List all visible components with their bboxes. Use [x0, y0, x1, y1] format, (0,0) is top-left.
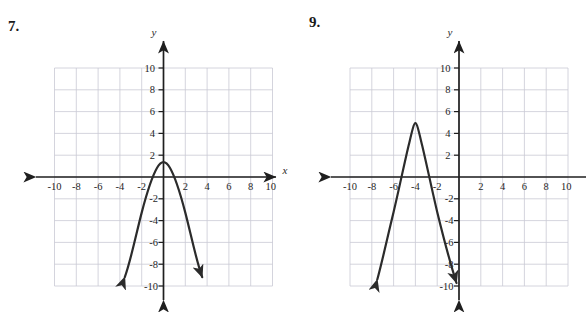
- x-axis-label-7: x: [282, 164, 288, 176]
- x-tick-7-p6: 6: [226, 181, 231, 192]
- x-tick-9-n2: -2: [433, 181, 442, 192]
- x-tick-labels-9: -10 -8 -6 -4 -2 2 4 6 8 10: [343, 181, 571, 192]
- x-tick-9-n6: -6: [389, 181, 398, 192]
- worksheet-page: 7.: [0, 0, 586, 312]
- y-tick-7-n10: -10: [144, 281, 158, 292]
- y-tick-9-p6: 6: [445, 106, 450, 117]
- x-tick-7-n4: -4: [116, 181, 125, 192]
- y-tick-7-n4: -4: [149, 215, 158, 226]
- x-tick-7-p10: 10: [265, 181, 276, 192]
- x-tick-9-n4: -4: [411, 181, 420, 192]
- y-axis-label-7: y: [151, 26, 157, 38]
- x-tick-9-n8: -8: [367, 181, 376, 192]
- y-tick-9-n2: -2: [445, 193, 454, 204]
- problem-7-panel: 7.: [0, 0, 293, 312]
- x-tick-7-p8: 8: [248, 181, 253, 192]
- y-tick-7-p8: 8: [150, 84, 155, 95]
- y-tick-7-n2: -2: [149, 193, 158, 204]
- x-tick-7-n6: -6: [94, 181, 103, 192]
- x-tick-9-p6: 6: [522, 181, 527, 192]
- y-tick-7-n8: -8: [149, 259, 158, 270]
- y-tick-7-p10: 10: [145, 63, 156, 74]
- x-tick-9-p2: 2: [478, 181, 483, 192]
- x-tick-labels-7: -10 -8 -6 -4 -2 2 4 6 8 10: [48, 181, 276, 192]
- y-tick-9-p8: 8: [445, 84, 450, 95]
- y-tick-7-n6: -6: [149, 237, 158, 248]
- graph-9: y x -10 -8 -6 -4 -2 2 4 6 8 10 10 8 6 4 …: [293, 0, 586, 312]
- x-tick-9-p4: 4: [500, 181, 506, 192]
- x-tick-7-n2: -2: [137, 181, 146, 192]
- problem-9-panel: 9.: [293, 0, 586, 312]
- y-tick-9-p4: 4: [445, 128, 451, 139]
- y-tick-9-n10: -10: [440, 281, 454, 292]
- graph-7: y x -10 -8 -6 -4 -2 2 4 6 8 10 10 8 6 4: [0, 0, 293, 312]
- x-tick-7-p4: 4: [204, 181, 210, 192]
- x-tick-9-p8: 8: [544, 181, 549, 192]
- x-tick-7-p2: 2: [183, 181, 188, 192]
- axes-9: [331, 41, 586, 300]
- x-tick-7-n10: -10: [48, 181, 62, 192]
- y-tick-7-p6: 6: [150, 106, 155, 117]
- y-tick-9-p10: 10: [440, 63, 451, 74]
- x-tick-7-n8: -8: [72, 181, 81, 192]
- y-tick-9-p2: 2: [445, 150, 450, 161]
- y-axis-label-9: y: [447, 26, 453, 38]
- y-tick-9-n4: -4: [445, 215, 454, 226]
- x-tick-9-n10: -10: [343, 181, 357, 192]
- x-tick-9-p10: 10: [561, 181, 572, 192]
- y-tick-7-p2: 2: [150, 150, 155, 161]
- y-tick-7-p4: 4: [150, 128, 156, 139]
